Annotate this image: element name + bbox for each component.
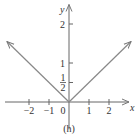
curve-right-branch	[69, 42, 131, 102]
y-tick-label-denominator: 2	[61, 82, 66, 93]
x-tick-label: 1	[87, 105, 92, 116]
x-tick-label: −1	[44, 105, 55, 116]
y-tick-label: 1	[60, 58, 65, 69]
caption: (h)	[63, 123, 75, 135]
y-axis-label: y	[59, 4, 65, 15]
origin-label: 0	[61, 105, 66, 116]
x-axis-label: x	[129, 102, 135, 113]
y-tick-label: 2	[60, 19, 65, 30]
chart: −2−1121212 x y 0 (h)	[0, 0, 135, 137]
x-tick-label: −2	[24, 105, 35, 116]
x-tick-label: 2	[107, 105, 112, 116]
